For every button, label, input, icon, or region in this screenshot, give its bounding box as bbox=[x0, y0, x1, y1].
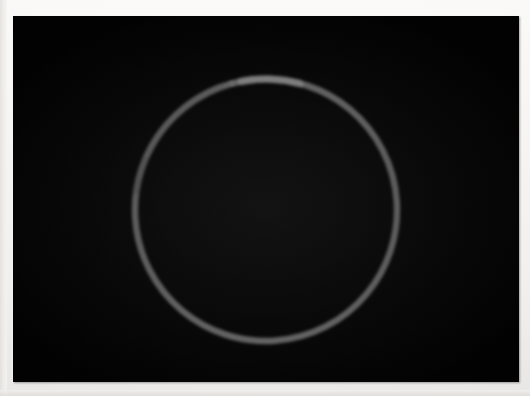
photo-vignette bbox=[13, 16, 519, 382]
scan-edge-bottom bbox=[0, 390, 530, 396]
scan-edge-left bbox=[0, 0, 7, 396]
image-viewport bbox=[0, 0, 530, 396]
ring-dot-group bbox=[229, 81, 235, 85]
ring-photograph bbox=[13, 16, 519, 382]
isolated-dot bbox=[229, 81, 235, 85]
upper-left-dash-short bbox=[136, 178, 139, 191]
ring-figure bbox=[13, 16, 519, 382]
